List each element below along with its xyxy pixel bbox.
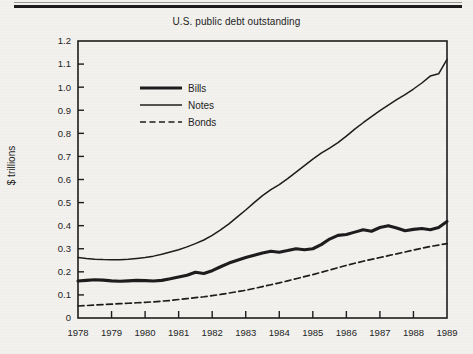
line-chart-svg: 00.10.20.30.40.50.60.70.80.91.01.11.2 19… [0, 0, 473, 354]
x-tick-label: 1985 [302, 327, 323, 338]
x-tick-label: 1979 [101, 327, 122, 338]
x-tick-label: 1982 [202, 327, 223, 338]
x-tick-label: 1986 [336, 327, 357, 338]
x-tick-label: 1978 [67, 327, 88, 338]
y-tick-label: 0.4 [58, 220, 71, 231]
x-tick-label: 1987 [369, 327, 390, 338]
y-tick-label: 0.8 [58, 128, 71, 139]
series-layer [78, 59, 447, 306]
y-tick-label: 0.6 [58, 174, 71, 185]
legend-label-bonds: Bonds [188, 117, 216, 128]
plot-frame [78, 41, 447, 318]
x-axis-ticks: 1978197919801981198219831984198519861987… [67, 311, 457, 338]
y-tick-label: 0.3 [58, 243, 71, 254]
x-tick-label: 1983 [235, 327, 256, 338]
x-tick-label: 1981 [168, 327, 189, 338]
legend-label-notes: Notes [188, 100, 214, 111]
y-tick-label: 1.1 [58, 58, 71, 69]
x-tick-label: 1989 [436, 327, 457, 338]
x-tick-label: 1984 [269, 327, 290, 338]
legend-label-bills: Bills [188, 83, 206, 94]
x-tick-label: 1988 [403, 327, 424, 338]
y-tick-label: 0.7 [58, 151, 71, 162]
y-tick-label: 1.0 [58, 82, 71, 93]
plot-border [78, 41, 447, 318]
figure-panel: U.S. public debt outstanding $ trillions… [0, 0, 473, 354]
y-tick-label: 0.5 [58, 197, 71, 208]
y-tick-label: 0.1 [58, 289, 71, 300]
y-tick-label: 0.2 [58, 266, 71, 277]
chart-legend: BillsNotesBonds [140, 83, 216, 128]
y-tick-label: 0.9 [58, 105, 71, 116]
series-line-bills [78, 222, 447, 282]
y-tick-label: 1.2 [58, 35, 71, 46]
y-tick-label: 0 [66, 312, 71, 323]
series-line-notes [78, 59, 447, 259]
x-tick-label: 1980 [135, 327, 156, 338]
